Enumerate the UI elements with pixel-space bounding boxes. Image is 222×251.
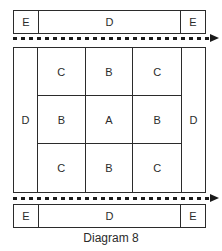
matrix-cell: C (133, 48, 181, 96)
top-flow-arrow-icon (13, 34, 219, 43)
top-end-bar: E D E (13, 10, 206, 34)
diagram-figure: E D E D C B C B A B C B C D E D E (0, 0, 222, 251)
top-flow-arrow-head-icon (210, 34, 219, 42)
matrix-cell: C (38, 144, 86, 192)
right-side-column-cell: D (181, 48, 205, 192)
matrix-cell: B (86, 144, 134, 192)
bottom-flow-arrow-dotted-line (13, 197, 209, 200)
diagram-caption: Diagram 8 (0, 231, 222, 245)
matrix-cell: C (133, 144, 181, 192)
bottom-flow-arrow-icon (13, 194, 219, 203)
bottom-bar-right-cell: E (180, 205, 205, 227)
main-grid-block: D C B C B A B C B C D (13, 47, 206, 193)
matrix-cell: B (86, 48, 134, 96)
left-side-column-cell: D (14, 48, 38, 192)
matrix-cell: C (38, 48, 86, 96)
inner-matrix: C B C B A B C B C (38, 48, 181, 192)
matrix-cell: B (38, 96, 86, 144)
top-bar-middle-cell: D (39, 11, 180, 33)
matrix-cell: A (86, 96, 134, 144)
bottom-flow-arrow-head-icon (210, 194, 219, 202)
matrix-cell: B (133, 96, 181, 144)
bottom-end-bar: E D E (13, 204, 206, 228)
bottom-bar-left-cell: E (14, 205, 39, 227)
top-bar-right-cell: E (180, 11, 205, 33)
bottom-bar-middle-cell: D (39, 205, 180, 227)
top-flow-arrow-dotted-line (13, 37, 209, 40)
top-bar-left-cell: E (14, 11, 39, 33)
